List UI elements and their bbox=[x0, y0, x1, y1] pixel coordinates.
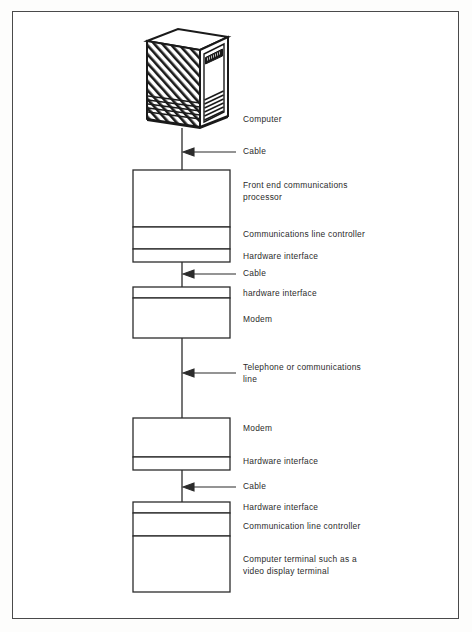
leader-cable-fep-to-modem bbox=[183, 270, 236, 278]
hardware-interface-modem-bottom-box bbox=[133, 457, 230, 470]
label-modem-top: Modem bbox=[243, 314, 272, 326]
label-comms-line-controller-top: Communications line controller bbox=[243, 229, 365, 241]
modem-bottom-group bbox=[133, 418, 230, 470]
label-comms-line-controller-bottom: Communication line controller bbox=[243, 521, 361, 533]
hardware-interface-modem-top-box bbox=[133, 287, 230, 298]
label-cable-modem-to-terminal: Cable bbox=[243, 481, 266, 493]
terminal-box bbox=[133, 536, 230, 592]
label-terminal: Computer terminal such as a video displa… bbox=[243, 554, 357, 577]
hardware-interface-fep-box bbox=[133, 249, 230, 262]
modem-top-group bbox=[133, 287, 230, 338]
label-cable-computer-to-fep: Cable bbox=[243, 146, 266, 158]
label-hardware-interface-modem-bottom: Hardware interface bbox=[243, 456, 318, 468]
hardware-interface-terminal-box bbox=[133, 502, 230, 513]
leader-telephone-line bbox=[183, 369, 236, 377]
label-front-end-processor: Front end communications processor bbox=[243, 180, 348, 203]
label-telephone-line: Telephone or communications line bbox=[243, 362, 361, 385]
front-end-processor-box bbox=[133, 170, 230, 227]
label-computer: Computer bbox=[243, 114, 282, 126]
terminal-group bbox=[133, 502, 230, 592]
label-hardware-interface-modem-top: hardware interface bbox=[243, 288, 317, 300]
diagram-canvas bbox=[0, 0, 472, 632]
label-hardware-interface-fep: Hardware interface bbox=[243, 251, 318, 263]
leader-cable-modem-to-terminal bbox=[183, 483, 236, 491]
modem-bottom-box bbox=[133, 418, 230, 457]
front-end-processor-group bbox=[133, 170, 230, 262]
modem-top-box bbox=[133, 298, 230, 338]
label-hardware-interface-terminal: Hardware interface bbox=[243, 502, 318, 514]
label-cable-fep-to-modem: Cable bbox=[243, 268, 266, 280]
computer-illustration bbox=[147, 29, 228, 129]
comms-line-controller-bottom-box bbox=[133, 513, 230, 536]
label-modem-bottom: Modem bbox=[243, 423, 272, 435]
leader-cable-computer-to-fep bbox=[183, 148, 236, 156]
comms-line-controller-top-box bbox=[133, 227, 230, 249]
diagram-page: Computer Cable Front end communications … bbox=[0, 0, 472, 632]
